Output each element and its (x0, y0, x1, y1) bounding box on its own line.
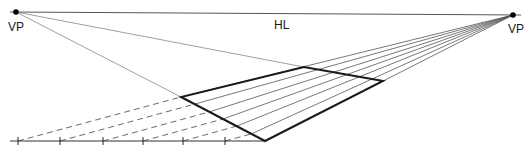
horizon-label: HL (274, 18, 290, 32)
measuring-lines (18, 15, 513, 141)
left-vp-construction-line (16, 12, 304, 67)
vanishing-point-left (13, 9, 19, 15)
horizon-line (10, 12, 521, 15)
vanishing-point-right (510, 12, 516, 18)
vp-left-label: VP (8, 20, 24, 34)
perspective-diagram: VP VP HL (0, 0, 528, 153)
perspective-plane (181, 67, 383, 141)
vp-right-label: VP (508, 22, 524, 36)
left-vp-construction-line (16, 12, 181, 97)
